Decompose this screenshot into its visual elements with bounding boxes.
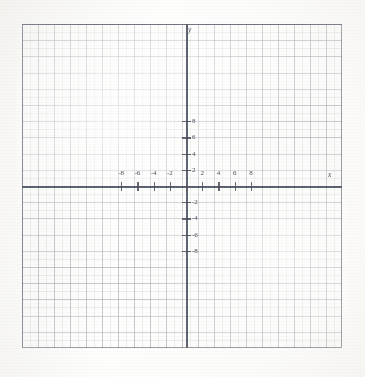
grid-border [22, 24, 342, 348]
worksheet-page: -8-6-4-22468 8642-2-4-6-8 x y [0, 0, 365, 377]
coordinate-grid: -8-6-4-22468 8642-2-4-6-8 x y [22, 24, 342, 348]
